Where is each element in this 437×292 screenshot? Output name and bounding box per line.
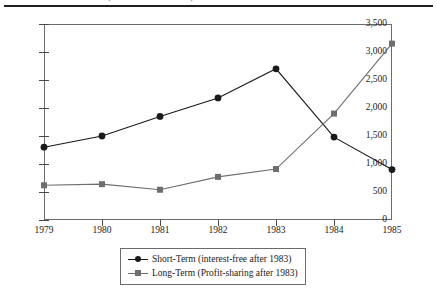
- y-tick-mark: [39, 164, 49, 165]
- y-tick-label: 3,500: [366, 19, 387, 29]
- legend-label-short-term: Short-Term (interest-free after 1983): [152, 254, 291, 264]
- x-tick-label: 1983: [267, 226, 286, 236]
- x-tick-mark: [334, 220, 335, 226]
- circle-marker-icon: [128, 254, 148, 264]
- y-tick-mark: [39, 80, 49, 81]
- x-tick-mark: [276, 220, 277, 226]
- y-tick-mark: [39, 192, 49, 193]
- x-tick-label: 1981: [151, 226, 170, 236]
- y-tick-label: 500: [373, 187, 387, 197]
- y-tick-label: 2,500: [366, 75, 387, 85]
- y-tick-label: 0: [382, 215, 387, 225]
- legend-item-short-term: Short-Term (interest-free after 1983): [128, 252, 298, 266]
- y-tick-mark: [39, 108, 49, 109]
- plot-area-frame: [44, 24, 392, 220]
- y-tick-label: 2,000: [366, 103, 387, 113]
- chart-legend: Short-Term (interest-free after 1983) Lo…: [120, 248, 306, 285]
- y-tick-mark: [39, 52, 49, 53]
- y-tick-label: 3,000: [366, 47, 387, 57]
- x-tick-label: 1985: [383, 226, 402, 236]
- y-tick-mark: [39, 220, 49, 221]
- legend-item-long-term: Long-Term (Profit-sharing after 1983): [128, 266, 298, 280]
- x-tick-label: 1984: [325, 226, 344, 236]
- square-marker-icon: [128, 268, 148, 278]
- y-tick-mark: [39, 24, 49, 25]
- y-tick-label: 1,500: [366, 131, 387, 141]
- x-tick-mark: [160, 220, 161, 226]
- cropped-title-text: (continued from above): [108, 0, 193, 2]
- y-tick-mark: [39, 136, 49, 137]
- x-tick-label: 1979: [35, 226, 54, 236]
- y-tick-label: 1,000: [366, 159, 387, 169]
- x-tick-mark: [102, 220, 103, 226]
- x-tick-label: 1980: [93, 226, 112, 236]
- x-tick-mark: [218, 220, 219, 226]
- legend-label-long-term: Long-Term (Profit-sharing after 1983): [152, 268, 298, 278]
- line-chart-figure: 05001,0001,5002,0002,5003,0003,500 19791…: [0, 8, 437, 292]
- header-divider-rule: [4, 5, 433, 7]
- x-tick-label: 1982: [209, 226, 228, 236]
